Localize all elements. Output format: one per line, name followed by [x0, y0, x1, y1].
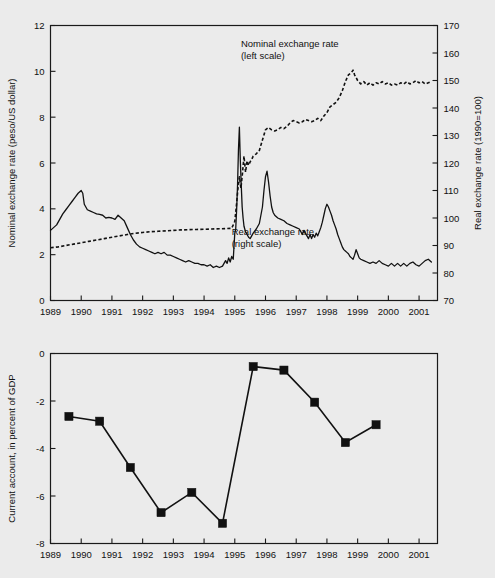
bottom-xticklabel: 1991: [101, 549, 122, 560]
bottom-xticklabel: 1997: [286, 549, 307, 560]
top-yticklabel-right: 160: [444, 48, 460, 59]
top-yticklabel-right: 110: [444, 185, 459, 196]
top-xticklabel: 2000: [378, 306, 399, 317]
top-yticklabel-right: 130: [444, 130, 460, 141]
bottom-xticklabel: 1993: [163, 549, 184, 560]
nominal-label-line2: (left scale): [241, 50, 285, 61]
bottom-datapoint-1989: [65, 412, 73, 420]
bottom-xticklabel: 2000: [378, 549, 399, 560]
top-xticklabel: 1999: [347, 306, 368, 317]
top-yticklabel-left: 6: [39, 158, 44, 169]
bottom-yticklabel: -8: [36, 538, 44, 549]
top-xticklabel: 2001: [409, 306, 430, 317]
bottom-datapoint-1993: [188, 488, 196, 496]
figure-background: [0, 0, 495, 578]
bottom-datapoint-1990: [96, 417, 104, 425]
real-label-line1: Real exchange rate: [232, 226, 314, 237]
top-xticklabel: 1992: [132, 306, 153, 317]
top-xticklabel: 1996: [255, 306, 276, 317]
top-xticklabel: 1995: [224, 306, 245, 317]
bottom-xticklabel: 1989: [40, 549, 61, 560]
top-yticklabel-left: 2: [39, 249, 44, 260]
bottom-datapoint-1995: [249, 362, 257, 370]
dual-panel-exchange-rate-chart: 0246810127080901001101201301401501601701…: [0, 0, 495, 578]
top-yticklabel-right: 70: [444, 295, 455, 306]
bottom-yticklabel: -6: [36, 491, 44, 502]
bottom-xticklabel: 1995: [224, 549, 245, 560]
top-xticklabel: 1989: [40, 306, 61, 317]
top-xticklabel: 1991: [101, 306, 122, 317]
bottom-ylabel: Current account, in percent of GDP: [6, 374, 17, 522]
real-label-line2: (right scale): [232, 238, 282, 249]
bottom-xticklabel: 1996: [255, 549, 276, 560]
bottom-xticklabel: 2001: [409, 549, 430, 560]
bottom-xticklabel: 1994: [194, 549, 215, 560]
bottom-datapoint-1996: [280, 366, 288, 374]
bottom-datapoint-1998: [341, 438, 349, 446]
top-ylabel-right: Real exchange rate (1990=100): [472, 96, 483, 230]
bottom-xticklabel: 1992: [132, 549, 153, 560]
top-ylabel-left: Nominal exchange rate (peso/US dollar): [6, 79, 17, 248]
top-yticklabel-right: 150: [444, 75, 460, 86]
bottom-yticklabel: -2: [36, 396, 44, 407]
top-yticklabel-right: 80: [444, 268, 455, 279]
top-yticklabel-left: 8: [39, 112, 44, 123]
top-yticklabel-right: 140: [444, 103, 460, 114]
top-yticklabel-left: 12: [34, 20, 45, 31]
top-yticklabel-left: 10: [34, 66, 45, 77]
bottom-xticklabel: 1999: [347, 549, 368, 560]
nominal-label-line1: Nominal exchange rate: [241, 38, 339, 49]
bottom-datapoint-1997: [311, 398, 319, 406]
top-xticklabel: 1998: [316, 306, 337, 317]
bottom-yticklabel: 0: [39, 348, 44, 359]
figure-container: 0246810127080901001101201301401501601701…: [0, 0, 495, 578]
top-yticklabel-right: 120: [444, 158, 460, 169]
bottom-xticklabel: 1990: [71, 549, 92, 560]
top-yticklabel-right: 100: [444, 213, 460, 224]
top-yticklabel-right: 90: [444, 240, 455, 251]
top-xticklabel: 1993: [163, 306, 184, 317]
bottom-datapoint-1994: [218, 519, 226, 527]
top-xticklabel: 1994: [194, 306, 215, 317]
bottom-xticklabel: 1998: [316, 549, 337, 560]
bottom-yticklabel: -4: [36, 443, 44, 454]
top-yticklabel-left: 0: [39, 295, 44, 306]
bottom-datapoint-1991: [126, 463, 134, 471]
top-yticklabel-left: 4: [39, 203, 44, 214]
bottom-datapoint-1992: [157, 509, 165, 517]
bottom-datapoint-1999: [372, 421, 380, 429]
top-xticklabel: 1997: [286, 306, 307, 317]
top-xticklabel: 1990: [71, 306, 92, 317]
top-yticklabel-right: 170: [444, 20, 460, 31]
